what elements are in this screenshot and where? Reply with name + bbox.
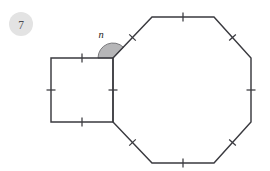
geometry-figure-canvas: 7 n [0, 0, 270, 171]
congruence-tick-marks [47, 13, 256, 168]
geometry-figure-container: 7 n [0, 0, 270, 171]
angle-label-n: n [98, 29, 103, 40]
question-number-badge: 7 [9, 12, 33, 36]
square-polygon [51, 58, 113, 122]
badge-number-text: 7 [18, 19, 24, 31]
